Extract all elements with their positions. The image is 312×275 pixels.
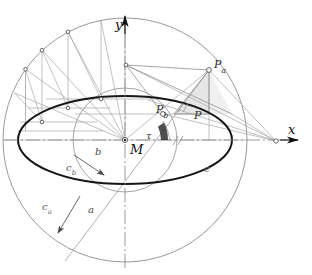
radius-b-arrow — [74, 155, 104, 175]
node-e1 — [40, 120, 44, 124]
circle-label-ca-base: c — [42, 201, 48, 212]
point-label-pb: Pb — [156, 104, 168, 118]
point-label-pa-base: P — [214, 58, 221, 71]
spoke-3 — [68, 32, 125, 140]
chord-5 — [15, 93, 43, 122]
circle-label-ca: ca — [42, 202, 52, 215]
node-e2 — [66, 106, 70, 110]
point-label-pa: Pa — [214, 59, 226, 73]
ellipse-construction-figure: y x M Pa Pb P τ c ca cb b a — [0, 0, 312, 275]
spoke-9 — [15, 93, 126, 140]
angle-tau-arc — [158, 123, 168, 141]
node-pole — [274, 139, 278, 143]
node-c3 — [66, 30, 70, 34]
spoke-4 — [101, 21, 125, 140]
circle-label-cb: cb — [66, 163, 76, 176]
horizontal-projectors-group — [18, 99, 209, 131]
radius-arrow-group — [58, 155, 104, 233]
hatch-lower-b — [178, 136, 183, 145]
x-axis-label: x — [288, 123, 295, 136]
circle-label-cb-base: c — [66, 162, 72, 173]
figure-canvas — [0, 0, 312, 275]
chord-3 — [68, 32, 101, 99]
node-upper — [124, 63, 128, 67]
y-axis-label: y — [115, 18, 122, 31]
shade-triangle-right — [209, 70, 232, 114]
radius-label-b: b — [95, 147, 101, 157]
point-label-pb-sub: b — [164, 111, 169, 120]
point-label-pb-base: P — [156, 103, 163, 116]
radius-a-arrow — [58, 196, 80, 233]
ellipse-label-c: c — [204, 164, 210, 174]
chord-group — [15, 32, 102, 131]
point-label-pa-sub: a — [222, 66, 226, 75]
pole-ray-2 — [163, 114, 276, 141]
center-label-M: M — [130, 143, 143, 156]
angle-label-tau: τ — [146, 131, 152, 141]
node-e3 — [99, 97, 103, 101]
node-markers-group — [24, 30, 278, 143]
radius-label-a: a — [88, 205, 94, 215]
node-c1 — [24, 68, 28, 72]
pa-to-upper-node — [126, 65, 209, 70]
spoke-1 — [26, 69, 126, 140]
point-label-p: P — [194, 110, 201, 121]
node-Pa — [207, 68, 212, 73]
circle-label-cb-sub: b — [72, 169, 76, 177]
node-M-dot — [124, 139, 126, 141]
circle-label-ca-sub: a — [48, 208, 52, 216]
node-c2 — [40, 48, 44, 52]
